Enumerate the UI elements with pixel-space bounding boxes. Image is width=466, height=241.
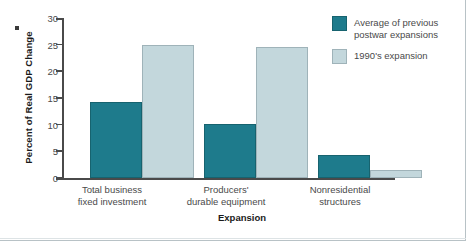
- y-tick-label-25: 25: [47, 39, 58, 50]
- y-tick-label-30: 30: [47, 13, 58, 24]
- bar-dark-producers-durable-equipment[interactable]: [204, 124, 256, 178]
- y-tick-label-5: 5: [53, 146, 58, 157]
- x-tick-label-line-1: Nonresidential: [260, 184, 420, 196]
- bar-dark-nonresidential-structures[interactable]: [318, 155, 370, 178]
- legend-swatch-icon-dark: [332, 16, 347, 31]
- legend-label-line-1: 1990's expansion: [354, 50, 428, 62]
- legend-label-average-previous-postwar-expansions: Average of previous postwar expansions: [354, 16, 438, 40]
- bar-light-producers-durable-equipment[interactable]: [256, 47, 308, 178]
- x-axis-line: [56, 178, 395, 180]
- legend-label-line-1: Average of previous: [354, 17, 438, 29]
- bar-group-producers-durable-equipment: [204, 18, 308, 178]
- legend-item-1990s-expansion[interactable]: 1990's expansion: [332, 49, 462, 64]
- x-tick-label-line-2: structures: [260, 196, 420, 208]
- legend-label-line-2: postwar expansions: [354, 29, 438, 41]
- y-tick-label-20: 20: [47, 66, 58, 77]
- x-tick-label-nonresidential-structures: Nonresidential structures: [260, 184, 420, 208]
- legend-item-average-previous-postwar-expansions[interactable]: Average of previous postwar expansions: [332, 16, 462, 40]
- legend-label-1990s-expansion: 1990's expansion: [354, 49, 428, 62]
- y-tick-label-15: 15: [47, 93, 58, 104]
- bar-dark-total-business-fixed-investment[interactable]: [90, 102, 142, 178]
- bar-light-total-business-fixed-investment[interactable]: [142, 45, 194, 178]
- x-axis-title: Expansion: [218, 212, 266, 223]
- y-axis-title: Percent of Real GDP Change: [23, 18, 34, 178]
- figure-border-bottom-secondary: [0, 238, 466, 239]
- legend-swatch-icon-light: [332, 49, 347, 64]
- y-tick-label-10: 10: [47, 119, 58, 130]
- y-tick-label-0: 0: [53, 173, 58, 184]
- corner-mark-icon: [15, 26, 19, 30]
- chart-legend: Average of previous postwar expansions 1…: [332, 16, 462, 73]
- chart-figure: Percent of Real GDP Change 0 5 10 15 20 …: [0, 0, 466, 241]
- x-axis-title-wrap: Expansion: [0, 212, 466, 223]
- bar-group-total-business-fixed-investment: [90, 18, 194, 178]
- bar-light-nonresidential-structures[interactable]: [370, 170, 422, 178]
